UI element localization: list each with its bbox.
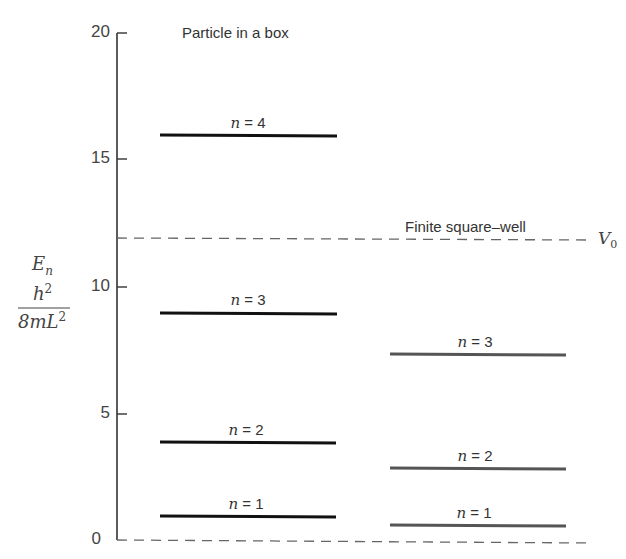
tick-label-20: 20 xyxy=(80,22,110,42)
finite-square-well-title: Finite square–well xyxy=(405,218,526,235)
v0-dashed-line xyxy=(117,238,590,240)
well-level-n2 xyxy=(390,468,566,469)
tick-label-15: 15 xyxy=(80,148,110,168)
box-level-n1 xyxy=(160,516,336,517)
particle-in-box-title: Particle in a box xyxy=(182,24,289,41)
box-label-n4: n = 4 xyxy=(198,114,298,132)
well-label-n1: n = 1 xyxy=(424,504,524,522)
box-level-n3 xyxy=(160,313,337,314)
box-label-n1: n = 1 xyxy=(196,495,296,513)
y-label-denominator: 8mL2 xyxy=(18,310,66,332)
box-label-n2: n = 2 xyxy=(196,421,296,439)
well-label-n2: n = 2 xyxy=(425,447,525,465)
well-label-n3: n = 3 xyxy=(425,333,525,351)
well-level-n3 xyxy=(390,354,566,355)
box-level-n4 xyxy=(160,135,337,136)
box-level-n2 xyxy=(160,442,336,443)
tick-label-5: 5 xyxy=(80,403,110,423)
y-label-energy: En xyxy=(32,253,53,278)
well-level-n1 xyxy=(390,525,566,526)
tick-label-0: 0 xyxy=(71,529,101,549)
zero-energy-dashed-line xyxy=(117,540,590,543)
y-label-numerator: h2 xyxy=(33,282,52,304)
v0-label: V0 xyxy=(598,228,617,251)
box-label-n3: n = 3 xyxy=(198,291,298,309)
tick-label-10: 10 xyxy=(80,276,110,296)
